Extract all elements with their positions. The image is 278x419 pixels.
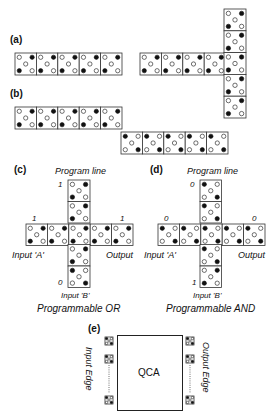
qca-cell — [121, 132, 142, 154]
panel-a-label: (a) — [10, 34, 22, 45]
d-output-label: Output — [238, 250, 265, 260]
d-input-b-value: 1 — [192, 278, 196, 287]
qca-cell — [36, 53, 57, 75]
qca-cell — [105, 337, 113, 345]
c-output-value: 1 — [120, 214, 124, 223]
qca-cell — [200, 202, 222, 224]
qca-cell — [224, 74, 246, 96]
c-input-b-label: Input 'B' — [61, 291, 89, 300]
qca-cell — [204, 53, 225, 75]
d-input-a-label: Input 'A' — [144, 250, 176, 260]
qca-cell — [200, 266, 222, 288]
qca-cell — [200, 245, 222, 267]
panel-b-label: (b) — [10, 88, 23, 99]
input-edge-label: Input Edge — [84, 347, 94, 391]
d-program-line-label: Program line — [187, 166, 238, 176]
qca-cell — [186, 355, 194, 363]
output-edge-label: Output Edge — [201, 342, 211, 393]
qca-cell — [112, 224, 133, 246]
c-input-a-value: 1 — [32, 214, 36, 223]
d-caption: Programmable AND — [166, 303, 255, 314]
c-output-label: Output — [106, 250, 133, 260]
qca-cell — [68, 245, 90, 267]
qca-cell — [140, 53, 161, 75]
qca-cell — [47, 224, 68, 246]
qca-cell — [58, 107, 79, 129]
d-input-b-label: Input 'B' — [193, 291, 221, 300]
d-program-value: 0 — [190, 180, 194, 189]
qca-cell — [101, 107, 122, 129]
qca-cell — [58, 53, 79, 75]
qca-cell — [158, 224, 179, 246]
qca-cell — [224, 9, 246, 31]
qca-cell — [179, 224, 200, 246]
qca-cell — [244, 224, 265, 246]
qca-cell — [183, 53, 204, 75]
qca-cell — [200, 180, 222, 202]
qca-cell — [79, 53, 100, 75]
panel-c-label: (c) — [14, 164, 26, 175]
qca-cell — [15, 107, 36, 129]
qca-cell — [68, 266, 90, 288]
qca-label: QCA — [138, 367, 160, 378]
qca-cell — [164, 132, 185, 154]
d-input-a-value: 0 — [164, 214, 168, 223]
c-caption: Programmable OR — [37, 303, 120, 314]
c-program-line-label: Program line — [55, 166, 106, 176]
c-program-value: 1 — [58, 180, 62, 189]
qca-cell — [68, 202, 90, 224]
panel-d-label: (d) — [150, 164, 163, 175]
qca-cell — [186, 396, 194, 404]
qca-cell — [142, 132, 163, 154]
qca-cell — [222, 224, 243, 246]
qca-cell — [185, 132, 206, 154]
panel-e-label: (e) — [88, 323, 100, 334]
c-input-a-label: Input 'A' — [12, 250, 44, 260]
qca-cell — [68, 180, 90, 202]
qca-cell — [186, 337, 194, 345]
qca-cell — [224, 96, 246, 118]
qca-cell — [224, 53, 246, 75]
qca-cell — [15, 53, 36, 75]
qca-cell — [201, 224, 222, 246]
qca-cell — [69, 224, 90, 246]
qca-cell — [101, 53, 122, 75]
qca-cell — [36, 107, 57, 129]
qca-cell — [105, 396, 113, 404]
qca-cell — [90, 224, 111, 246]
qca-cell — [224, 31, 246, 53]
qca-cell — [207, 132, 228, 154]
c-input-b-value: 0 — [58, 278, 62, 287]
qca-cell — [105, 355, 113, 363]
qca-cell — [161, 53, 182, 75]
qca-cell — [26, 224, 47, 246]
qca-cell — [79, 107, 100, 129]
d-output-value: 0 — [252, 214, 256, 223]
